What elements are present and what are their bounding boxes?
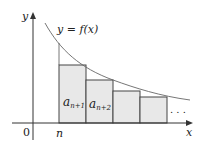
rect-a-n-plus-3 [113,91,140,123]
curve-label: y = f(x) [56,23,98,36]
rectangles [59,65,167,123]
riemann-sum-diagram: y y = f(x) x 0 n an+1 an+2 . . . [0,0,204,150]
origin-label: 0 [23,126,30,139]
ellipsis: . . . [170,104,186,115]
y-axis-label: y [21,10,29,23]
rect-a-n-plus-4 [140,97,167,123]
y-axis-arrow-icon [30,12,36,19]
x-axis-label: x [186,126,193,139]
rect-a-n-plus-1 [59,65,86,123]
n-label: n [56,127,63,140]
